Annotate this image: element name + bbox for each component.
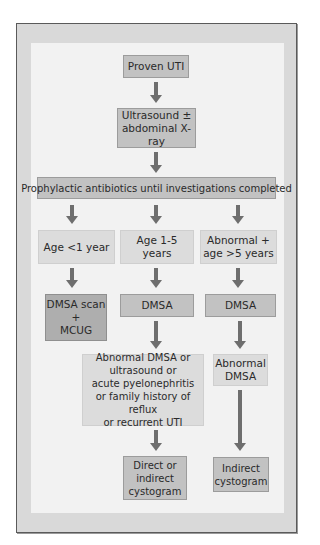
node-abnormal-dmsa: Abnormal DMSA <box>213 354 268 386</box>
node-prophylactic-antibiotics: Prophylactic antibiotics until investiga… <box>37 177 276 199</box>
node-age-1-5-label: Age 1-5 years <box>121 234 193 260</box>
node-age-1-5: Age 1-5 years <box>120 230 194 264</box>
node-abnormal-age-over-5: Abnormal + age >5 years <box>200 230 277 264</box>
arrow-down-icon <box>150 205 162 225</box>
arrow-down-icon <box>66 205 78 225</box>
node-dmsa-age-over-5: DMSA <box>205 294 276 317</box>
node-indirect-cystogram: Indirect cystogram <box>213 457 269 492</box>
arrow-down-icon <box>150 82 162 104</box>
node-direct-line3: cystogram <box>129 485 182 498</box>
node-abnormal-dmsa-line1: Abnormal <box>215 357 266 370</box>
node-dmsa-scan-mcug-line3: MCUG <box>60 324 92 337</box>
node-age-under-1-label: Age <1 year <box>44 241 110 254</box>
node-direct-indirect-cystogram: Direct or indirect cystogram <box>123 456 187 500</box>
node-abnormal-age-over-5-line2: age >5 years <box>203 247 274 260</box>
node-age-under-1: Age <1 year <box>38 230 115 264</box>
node-ultrasound-line1: Ultrasound ± <box>122 109 191 122</box>
node-proven-uti: Proven UTI <box>123 55 189 78</box>
node-proven-uti-label: Proven UTI <box>128 60 185 73</box>
node-criteria-line4: or family history of reflux <box>83 390 203 416</box>
node-direct-line1: Direct or <box>133 459 176 472</box>
node-dmsa-age-1-5-label: DMSA <box>141 299 172 312</box>
arrow-down-icon <box>150 430 162 452</box>
node-indirect-line2: cystogram <box>215 475 268 488</box>
node-dmsa-scan-mcug-line1: DMSA scan <box>47 298 106 311</box>
node-prophylactic-label: Prophylactic antibiotics until investiga… <box>21 182 292 195</box>
node-direct-line2: indirect <box>136 472 174 485</box>
node-criteria-line3: acute pyelonephritis <box>92 377 195 390</box>
arrow-down-icon <box>66 268 78 290</box>
arrow-down-icon <box>150 152 162 174</box>
arrow-down-icon <box>234 390 246 452</box>
node-abnormal-dmsa-line2: DMSA <box>225 370 256 383</box>
arrow-down-icon <box>232 268 244 290</box>
node-ultrasound-line2: abdominal X-ray <box>118 122 195 148</box>
arrow-down-icon <box>234 321 246 350</box>
node-abnormal-age-over-5-line1: Abnormal + <box>207 234 270 247</box>
node-dmsa-scan-mcug: DMSA scan + MCUG <box>45 294 107 341</box>
node-ultrasound: Ultrasound ± abdominal X-ray <box>117 108 196 148</box>
node-criteria-line5: or recurrent UTI <box>103 416 182 429</box>
node-dmsa-age-over-5-label: DMSA <box>225 299 256 312</box>
node-dmsa-age-1-5: DMSA <box>120 294 194 317</box>
node-criteria-line1: Abnormal DMSA or <box>96 351 191 364</box>
node-dmsa-scan-mcug-line2: + <box>72 311 81 324</box>
node-criteria: Abnormal DMSA or ultrasound or acute pye… <box>82 354 204 426</box>
node-criteria-line2: ultrasound or <box>109 364 176 377</box>
node-indirect-line1: Indirect <box>222 462 260 475</box>
arrow-down-icon <box>150 321 162 350</box>
arrow-down-icon <box>232 205 244 225</box>
arrow-down-icon <box>150 268 162 290</box>
